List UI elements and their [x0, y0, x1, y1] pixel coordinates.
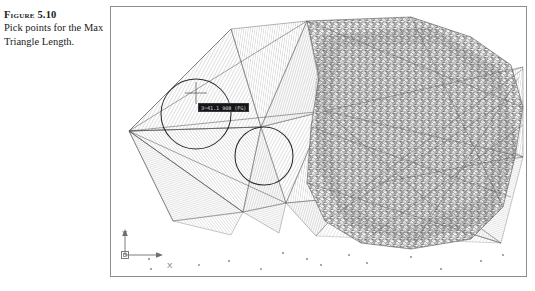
figure-image-frame: Y X 3=41.1 908 (FG): [110, 6, 527, 277]
figure-caption: Figure 5.10 Pick points for the Max Tria…: [4, 8, 104, 48]
tin-mesh-dense-cluster: [307, 17, 523, 249]
figure-caption-text: Pick points for the Max Triangle Length.: [4, 21, 104, 48]
y-axis-label: Y: [122, 229, 127, 238]
figure-number-label: Figure 5.10: [4, 8, 104, 21]
figure-page: Figure 5.10 Pick points for the Max Tria…: [0, 0, 535, 291]
ucs-axis-labels: Y X: [119, 229, 181, 277]
coordinate-tooltip: 3=41.1 908 (FG): [198, 103, 249, 112]
x-axis-label: X: [167, 261, 172, 270]
